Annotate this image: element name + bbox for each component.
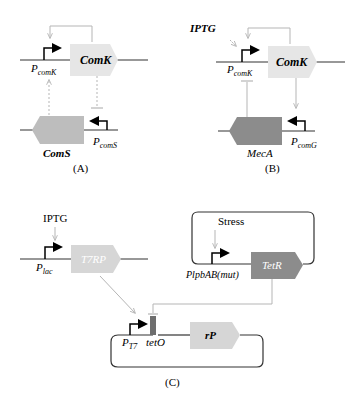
inducer-label: IPTG [189, 22, 216, 34]
panel-b: IPTG ComK PcomK MecA PcomG (B) [189, 22, 345, 175]
promoter-label: PlpbAB(mut) [185, 269, 239, 281]
promoter-icon [130, 319, 148, 335]
feedback-arrow [50, 26, 92, 42]
gene-label: ComS [43, 147, 71, 159]
gene-coms [32, 116, 84, 144]
operator-teto [150, 316, 156, 335]
gene-label: T7RP [81, 253, 106, 265]
gene-label: ComK [80, 53, 112, 67]
signal-label: Stress [218, 215, 244, 227]
promoter-label: PcomG [290, 135, 317, 150]
gene-label: ComK [276, 55, 308, 69]
panel-caption: (B) [265, 162, 280, 175]
panel-caption: (A) [73, 162, 89, 175]
panel-c: IPTG Plac T7RP Stress PlpbAB(mut) TetR [20, 212, 314, 389]
genetic-circuit-diagram: ComK PcomK ComS PcomS (A) IPTG ComK [0, 0, 359, 410]
inducer-arrow [230, 40, 236, 46]
panel-a: ComK PcomK ComS PcomS (A) [20, 26, 148, 175]
promoter-icon [287, 116, 305, 131]
promoter-icon [242, 45, 260, 62]
promoter-label: Plac [35, 261, 53, 276]
promoter-icon [44, 43, 62, 60]
promoter-icon [212, 248, 230, 264]
gene-meca [229, 117, 282, 145]
operator-label: tetO [146, 336, 165, 348]
gene-label: MecA [246, 147, 273, 159]
promoter-icon [45, 242, 63, 259]
activation-arrow [100, 276, 135, 313]
promoter-label: PcomS [92, 135, 117, 150]
inducer-label: IPTG [43, 212, 68, 224]
feedback-arrow [248, 28, 290, 44]
plasmid-outline [111, 335, 263, 367]
promoter-label: PT7 [121, 336, 138, 351]
panel-caption: (C) [165, 376, 180, 389]
promoter-icon [89, 116, 107, 130]
gene-label: rP [205, 329, 216, 341]
promoter-label: PcomK [30, 62, 57, 77]
promoter-label: PcomK [226, 63, 253, 78]
repression-line [153, 279, 272, 313]
gene-label: TetR [262, 259, 282, 271]
